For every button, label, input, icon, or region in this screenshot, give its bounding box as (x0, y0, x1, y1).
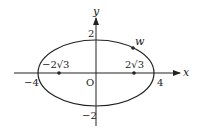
focus-left-label: −2√3 (42, 59, 69, 70)
focus-right-label: 2√3 (125, 59, 144, 70)
point-w-label: w (135, 35, 145, 48)
tick-x-neg: −4 (24, 77, 39, 88)
focus-right-point (132, 71, 136, 75)
origin-label: O (86, 77, 94, 88)
x-axis-label: x (183, 66, 190, 79)
tick-x-pos: 4 (157, 77, 163, 88)
ellipse-diagram: y x O 2 −2 −4 4 −2√3 2√3 w (0, 0, 197, 133)
tick-y-neg: −2 (82, 110, 97, 121)
tick-y-pos: 2 (88, 28, 94, 39)
focus-left-point (57, 71, 61, 75)
y-axis-label: y (92, 5, 100, 18)
